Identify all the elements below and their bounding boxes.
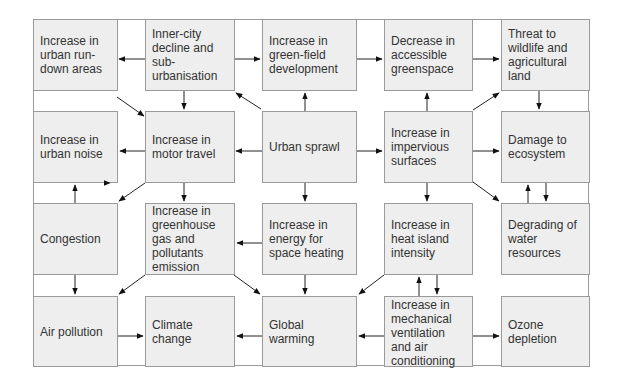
arrows-layer bbox=[0, 0, 619, 386]
